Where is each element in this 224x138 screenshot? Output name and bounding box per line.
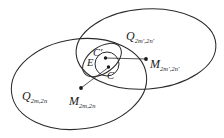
label-q-left-base: Q [22,89,31,103]
label-c-region: C [107,66,114,82]
label-m-right-subscript: 2m′,2n′ [160,65,180,72]
label-m-left: M2m,2n [69,92,96,108]
label-m-right: M2m′,2n′ [150,55,180,71]
label-e-region: E [87,53,93,69]
point-m-left [79,86,83,90]
label-c-prime: C′ [93,43,102,59]
label-m-left-subscript: 2m,2n [79,102,96,109]
ellipse-q-left [5,30,152,138]
figure-container: Q2m′,2n′ Q2m,2n M2m′,2n′ M2m,2n C′ E C [0,0,224,138]
label-q-left-subscript: 2m,2n [31,97,48,104]
point-m-right [144,57,148,61]
connector-m-right [105,58,146,59]
label-m-left-base: M [69,94,79,108]
connector-m-left [81,67,109,88]
label-q-right: Q2m′,2n′ [126,27,154,43]
label-m-right-base: M [150,57,160,71]
point-center-upper [104,56,107,59]
label-q-left: Q2m,2n [22,87,47,103]
label-e-region-base: E [87,57,93,68]
label-q-right-subscript: 2m′,2n′ [135,37,155,44]
label-q-right-base: Q [126,29,135,43]
label-c-prime-base: C′ [93,47,102,58]
label-c-region-base: C [107,70,114,81]
